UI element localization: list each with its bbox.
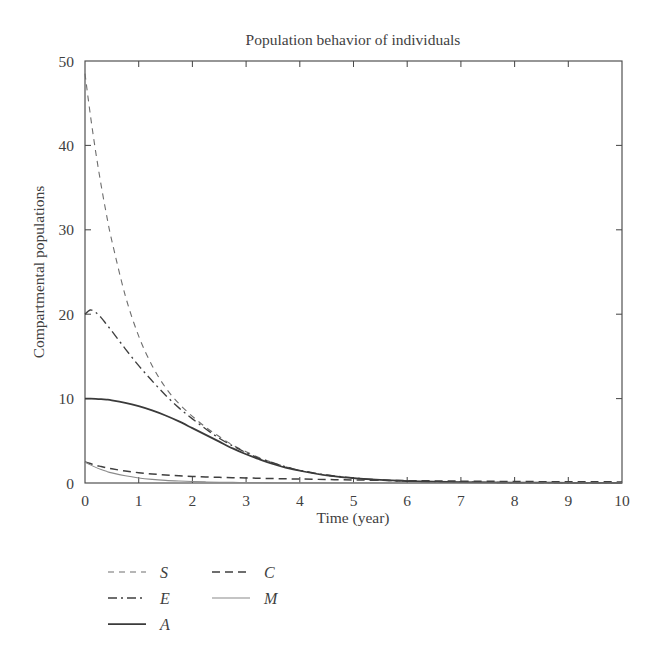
curve-E (85, 310, 622, 483)
x-tick-label: 0 (81, 492, 89, 509)
x-tick-label: 1 (135, 492, 143, 509)
x-tick-label: 8 (511, 492, 519, 509)
y-tick-label: 10 (59, 390, 75, 407)
legend-label-E: E (159, 590, 170, 607)
data-curves (85, 74, 622, 483)
chart-title: Population behavior of individuals (246, 31, 461, 48)
y-tick-label: 30 (59, 221, 75, 238)
x-tick-label: 9 (564, 492, 572, 509)
chart-figure: Population behavior of individuals Compa… (0, 0, 667, 653)
chart-legend: SEACM (108, 564, 279, 633)
legend-label-A: A (159, 616, 170, 633)
x-tick-label: 2 (189, 492, 197, 509)
y-tick-label: 40 (59, 137, 75, 154)
line-chart: Population behavior of individuals Compa… (0, 0, 667, 653)
axis-tick-labels: 01234567891001020304050 (59, 53, 631, 510)
curve-A (85, 399, 622, 483)
legend-label-S: S (160, 564, 168, 581)
x-tick-label: 10 (614, 492, 630, 509)
x-tick-label: 7 (457, 492, 465, 509)
x-tick-label: 4 (296, 492, 304, 509)
y-tick-label: 20 (59, 306, 75, 323)
legend-label-M: M (263, 590, 279, 607)
y-tick-label: 50 (59, 53, 75, 70)
x-tick-label: 3 (242, 492, 250, 509)
legend-label-C: C (264, 564, 275, 581)
x-tick-label: 5 (350, 492, 358, 509)
y-axis-label: Compartmental populations (30, 186, 47, 359)
x-axis-label: Time (year) (316, 509, 389, 527)
plot-frame (85, 61, 622, 483)
x-tick-label: 6 (403, 492, 411, 509)
curve-S (85, 74, 622, 483)
y-tick-label: 0 (66, 475, 74, 492)
axis-ticks (85, 61, 622, 483)
